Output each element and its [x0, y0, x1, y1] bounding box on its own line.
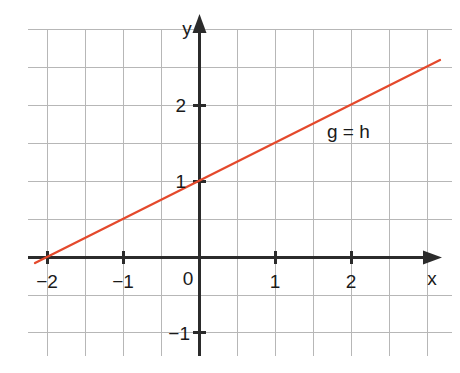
coordinate-plane: −2 −1 1 2 0 2 1 −1 x y g = h [0, 0, 460, 373]
y-tick-label-1: 1 [175, 171, 186, 192]
x-axis-label: x [427, 268, 437, 289]
series-annotation-g-h: g = h [327, 121, 370, 142]
graph-figure: −2 −1 1 2 0 2 1 −1 x y g = h [0, 0, 460, 373]
x-tick-label-1: 1 [270, 271, 281, 292]
origin-label: 0 [183, 268, 194, 289]
x-tick-label-minus2: −2 [36, 271, 58, 292]
y-tick-label-2: 2 [175, 95, 186, 116]
x-tick-label-minus1: −1 [112, 271, 134, 292]
figure-background [0, 0, 460, 373]
x-tick-label-2: 2 [346, 271, 357, 292]
y-axis-label: y [182, 18, 192, 39]
y-tick-label-minus1: −1 [168, 323, 190, 344]
